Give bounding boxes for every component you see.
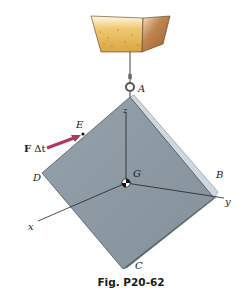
label-D: D	[32, 172, 41, 183]
label-y-axis: y	[224, 196, 231, 207]
label-z-axis: z	[122, 106, 128, 115]
eye-ring-A	[126, 83, 134, 91]
figure-canvas: A E D B C G z y x F Δt Fig. P20-62	[0, 0, 245, 301]
figure-caption: Fig. P20-62	[97, 276, 164, 288]
label-G: G	[133, 168, 141, 179]
label-B: B	[215, 169, 223, 180]
label-force: F Δt	[24, 143, 46, 154]
label-x-axis: x	[28, 221, 34, 232]
rope-coil	[128, 74, 132, 79]
bucket	[91, 16, 170, 52]
label-E: E	[75, 119, 84, 130]
bucket-side-face	[142, 16, 170, 52]
force-symbol: F	[24, 143, 31, 154]
center-of-mass-icon	[122, 179, 130, 187]
bucket-front-face	[91, 16, 143, 52]
label-A: A	[137, 83, 145, 94]
point-E-marker	[81, 132, 84, 135]
force-time-symbol: Δt	[31, 143, 45, 154]
label-C: C	[135, 260, 143, 271]
